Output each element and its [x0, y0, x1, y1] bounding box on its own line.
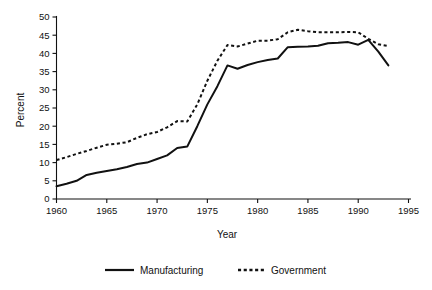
legend-label-government: Government [271, 265, 326, 276]
y-axis-tick-labels: 05101520253035404550 [39, 11, 50, 204]
chart-legend: Manufacturing Government [105, 265, 326, 276]
y-tick-label: 20 [39, 121, 50, 132]
y-tick-label: 40 [39, 48, 50, 59]
y-tick-label: 30 [39, 84, 50, 95]
y-tick-label: 15 [39, 139, 50, 150]
x-tick-label: 1970 [147, 205, 168, 216]
x-axis-tick-labels: 19601965197019751980198519901995 [46, 205, 419, 216]
x-tick-label: 1975 [197, 205, 218, 216]
x-axis-title: Year [217, 229, 238, 240]
y-tick-label: 5 [44, 175, 49, 186]
y-axis-title: Percent [15, 93, 26, 128]
chart-figure: 05101520253035404550 1960196519701975198… [0, 0, 432, 290]
y-tick-label: 50 [39, 11, 50, 22]
line-chart: 05101520253035404550 1960196519701975198… [0, 0, 432, 290]
series-line-government [57, 30, 389, 160]
legend-label-manufacturing: Manufacturing [140, 265, 203, 276]
y-tick-label: 45 [39, 30, 50, 41]
x-tick-label: 1980 [247, 205, 268, 216]
y-tick-label: 35 [39, 66, 50, 77]
x-tick-label: 1965 [96, 205, 117, 216]
series-line-manufacturing [57, 40, 389, 186]
x-tick-label: 1990 [348, 205, 369, 216]
x-tick-label: 1960 [46, 205, 67, 216]
x-axis-tick-marks [57, 199, 409, 203]
x-tick-label: 1995 [398, 205, 419, 216]
y-tick-label: 25 [39, 102, 50, 113]
y-axis-tick-marks [53, 17, 57, 199]
x-tick-label: 1985 [297, 205, 318, 216]
y-tick-label: 0 [44, 193, 49, 204]
y-tick-label: 10 [39, 157, 50, 168]
